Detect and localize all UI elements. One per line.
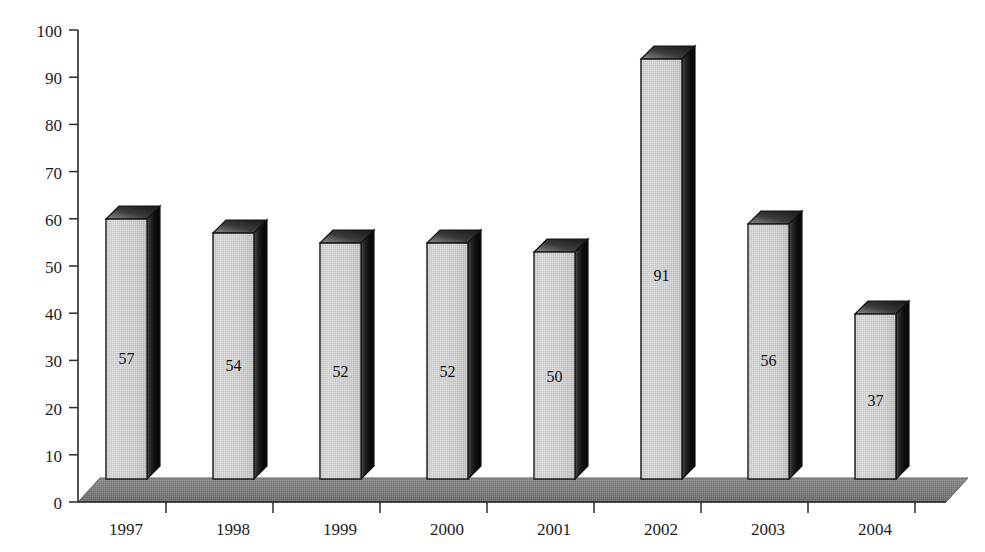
floor-plane: [78, 478, 968, 502]
x-tick-label: 2001: [537, 520, 571, 539]
chart-container: 100 90 80 70 60 50 40 30 20 10 0 57: [0, 0, 985, 552]
y-tick-label: 30: [45, 352, 62, 371]
y-tick-label: 0: [54, 494, 63, 513]
x-tick-label: 2000: [430, 520, 464, 539]
bar-group[interactable]: 54: [213, 220, 267, 479]
bar-value-label: 57: [119, 350, 135, 367]
x-tick-label: 1997: [109, 520, 144, 539]
bar-group[interactable]: 91: [641, 46, 695, 479]
bar-group[interactable]: 52: [320, 230, 374, 479]
y-tick-label: 50: [45, 258, 62, 277]
y-tick-label: 60: [45, 211, 62, 230]
x-tick-label: 2004: [858, 520, 893, 539]
x-tick-label: 2003: [751, 520, 785, 539]
y-tick-label: 40: [45, 305, 62, 324]
x-tick-label: 2002: [644, 520, 678, 539]
bar-group[interactable]: 57: [106, 206, 160, 479]
y-tick-label: 20: [45, 400, 62, 419]
bar-value-label: 54: [226, 357, 242, 374]
y-tick-label: 70: [45, 164, 62, 183]
bar-chart-3d: 100 90 80 70 60 50 40 30 20 10 0 57: [0, 0, 985, 552]
bar-group[interactable]: 52: [427, 230, 481, 479]
bar-value-label: 56: [761, 352, 777, 369]
y-tick-label: 100: [37, 22, 63, 41]
bar-value-label: 91: [654, 267, 670, 284]
bar-value-label: 50: [547, 368, 563, 385]
x-tick-label: 1999: [323, 520, 357, 539]
y-tick-label: 80: [45, 116, 62, 135]
bar-value-label: 52: [333, 363, 349, 380]
bar-group[interactable]: 50: [534, 239, 588, 479]
bar-value-label: 37: [868, 392, 884, 409]
y-tick-label: 10: [45, 447, 62, 466]
bar-group[interactable]: 37: [855, 301, 909, 479]
x-tick-label: 1998: [216, 520, 250, 539]
bar-group[interactable]: 56: [748, 211, 802, 479]
y-tick-label: 90: [45, 69, 62, 88]
bar-value-label: 52: [440, 363, 456, 380]
